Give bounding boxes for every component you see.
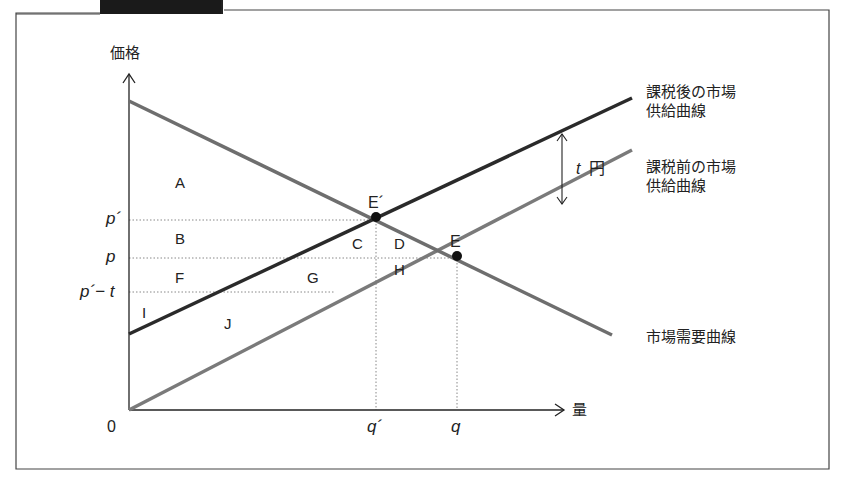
before-tax-supply-label-line1: 課税前の市場	[646, 158, 736, 176]
region-i: I	[142, 304, 146, 321]
tick-p-prime: p´	[105, 209, 121, 228]
tick-p-prime-minus-t: p´− t	[79, 282, 116, 301]
label-e: E	[450, 233, 461, 250]
figure-frame	[16, 10, 829, 469]
tax-t-label: t	[576, 160, 581, 177]
region-f: F	[175, 269, 184, 286]
y-axis-label: 価格	[110, 44, 140, 62]
region-b: B	[175, 230, 185, 247]
before-tax-supply-label-line2: 供給曲線	[646, 177, 706, 195]
region-a: A	[175, 174, 185, 191]
demand-curve-label: 市場需要曲線	[646, 328, 736, 346]
tax-unit-label: 円	[589, 159, 605, 178]
origin-label: 0	[107, 418, 116, 435]
region-h: H	[394, 261, 405, 278]
region-c: C	[352, 235, 363, 252]
tax-surplus-diagram: 価格 量 0 p´ p p´− t q´ q E´ E A B C D F G …	[0, 0, 845, 491]
after-tax-supply-label-line2: 供給曲線	[646, 102, 706, 120]
equilibrium-point-e	[452, 251, 462, 261]
after-tax-supply-label-line1: 課税後の市場	[646, 83, 736, 101]
equilibrium-point-e-prime	[371, 212, 381, 222]
region-j: J	[224, 315, 232, 332]
before-tax-supply-curve	[129, 150, 632, 410]
label-e-prime: E´	[368, 194, 384, 211]
region-d: D	[394, 235, 405, 252]
tick-p: p	[105, 247, 115, 266]
region-g: G	[307, 269, 319, 286]
tax-arrow-icon	[557, 134, 567, 204]
axes	[123, 74, 564, 416]
tick-q-prime: q´	[367, 417, 382, 436]
x-axis-label: 量	[572, 401, 587, 419]
tick-q: q	[451, 417, 461, 436]
